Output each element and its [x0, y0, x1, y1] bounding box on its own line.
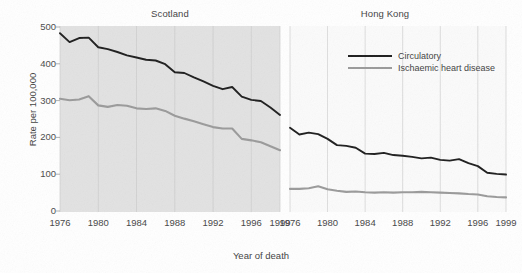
panel-background [60, 26, 280, 212]
y-axis-tick-label: 200 [30, 132, 56, 142]
legend-label-circulatory: Circulatory [398, 52, 441, 61]
panel-title-hong-kong: Hong Kong [315, 8, 455, 19]
x-axis-tick-label: 1992 [420, 218, 460, 228]
y-axis-tick-label: 0 [30, 206, 56, 216]
x-axis-tick-label: 1999 [486, 218, 522, 228]
x-axis-tick-label: 1984 [117, 218, 157, 228]
x-axis-tick-label: 1976 [40, 218, 80, 228]
x-axis-tick-label: 1992 [193, 218, 233, 228]
panel-title-scotland: Scotland [100, 8, 240, 19]
x-axis-tick-label: 1980 [78, 218, 118, 228]
y-axis-tick-labels: 0100200300400500 [28, 0, 56, 273]
x-axis-label: Year of death [181, 250, 341, 261]
y-axis-tick-label: 100 [30, 169, 56, 179]
x-axis-tick-label: 1984 [345, 218, 385, 228]
x-axis-tick-label: 1988 [383, 218, 423, 228]
y-axis-tick-label: 300 [30, 96, 56, 106]
x-axis-tick-label: 1980 [308, 218, 348, 228]
x-axis-tick-label: 1988 [155, 218, 195, 228]
legend-label-ischaemic-heart-disease: Ischaemic heart disease [398, 64, 495, 73]
plot-canvas [0, 0, 522, 273]
y-axis-tick-label: 500 [30, 22, 56, 32]
chart-figure: Scotland Hong Kong Rate per 100,000 Year… [0, 0, 522, 273]
y-axis-tick-label: 400 [30, 59, 56, 69]
x-axis-tick-label: 1976 [270, 218, 310, 228]
